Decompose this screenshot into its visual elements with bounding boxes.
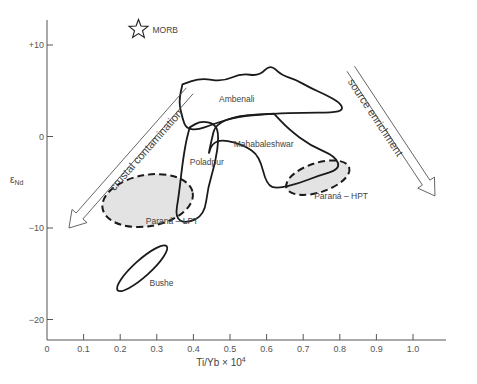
chart: 00.10.20.30.40.50.60.70.80.91.0+100−10−2… [0,0,477,384]
morb-star-marker [129,19,148,37]
y-tick-label: +10 [29,40,44,50]
x-tick-label: 0.2 [114,344,127,354]
field-ambenali [180,67,342,129]
x-tick-label: 0.4 [187,344,200,354]
source-enrichment-arrow-label: source enrichment [346,76,406,158]
field-label-bushe: Bushe [149,278,173,288]
x-tick-label: 0.9 [370,344,383,354]
y-tick-label: 0 [39,132,44,142]
x-axis-title-superscript: 4 [242,356,246,363]
field-bushe [112,240,172,296]
points: MORB [129,19,178,37]
field-label-parana-lpt: Paraná – LPT [146,216,198,226]
x-tick-label: 0.6 [260,344,273,354]
y-axis-title: εNd [10,174,24,186]
x-tick-label: 1.0 [407,344,420,354]
fields: AmbenaliMahabaleshwarPoladpurParaná – LP… [98,67,368,296]
field-label-mahabaleshwar: Mahabaleshwar [234,139,294,149]
field-label-poladpur: Poladpur [190,157,224,167]
point-label-morb: MORB [153,25,179,35]
field-label-parana-hpt: Paraná – HPT [314,191,368,201]
field-label-ambenali: Ambenali [219,94,255,104]
x-tick-label: 0.3 [151,344,164,354]
x-tick-label: 0.5 [224,344,237,354]
x-tick-label: 0.8 [334,344,347,354]
x-tick-label: 0.1 [77,344,90,354]
x-axis-title: Ti/Yb × 104 [196,356,246,368]
y-axis-title-subscript: Nd [14,179,23,186]
axes: 00.10.20.30.40.50.60.70.80.91.0+100−10−2… [29,20,446,354]
y-tick-label: −10 [29,223,44,233]
field-mahabaleshwar [209,114,338,188]
y-tick-label: −20 [29,315,44,325]
x-tick-label: 0.7 [297,344,310,354]
x-tick-label: 0 [44,344,49,354]
